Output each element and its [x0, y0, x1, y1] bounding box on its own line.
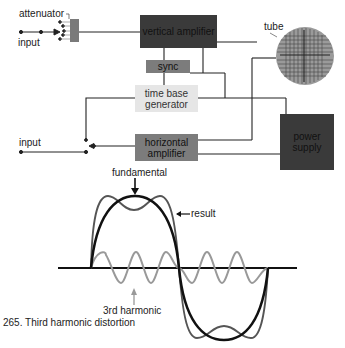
third-harmonic-label: 3rd harmonic [103, 306, 161, 316]
diagram-canvas [0, 0, 345, 348]
fundamental-label: fundamental [112, 168, 167, 178]
time-base-generator-block: time base generator [135, 85, 198, 112]
horizontal-amplifier-block: horizontal amplifier [135, 134, 198, 161]
result-label: result [191, 209, 215, 219]
tube-label: tube [264, 22, 283, 32]
crt-tube [276, 27, 334, 85]
waveform-plot [58, 178, 297, 340]
sync-block: sync [146, 60, 190, 73]
input-bottom-label: input [19, 138, 41, 148]
attenuator-label: attenuator [19, 9, 64, 19]
power-supply-block: power supply [280, 114, 334, 170]
input-top-label: input [18, 38, 40, 48]
figure-caption: 265. Third harmonic distortion [3, 318, 135, 328]
vertical-amplifier-block: vertical amplifier [140, 15, 217, 48]
attenuator-block [70, 19, 79, 42]
